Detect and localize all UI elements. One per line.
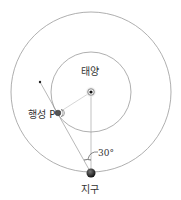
sun-label: 태양 (81, 63, 99, 78)
earth-icon (87, 169, 96, 178)
sight-line-end-dot (39, 81, 41, 83)
solar-system-diagram: 태양 행성 P 지구 30° (0, 0, 181, 200)
diagram-canvas (0, 0, 181, 200)
angle-leader (88, 152, 98, 159)
planet-label: 행성 P (28, 106, 55, 121)
angle-label: 30° (98, 148, 114, 158)
sun-icon (89, 90, 92, 93)
planet-p-icon (55, 110, 61, 116)
earth-label: 지구 (81, 181, 99, 196)
